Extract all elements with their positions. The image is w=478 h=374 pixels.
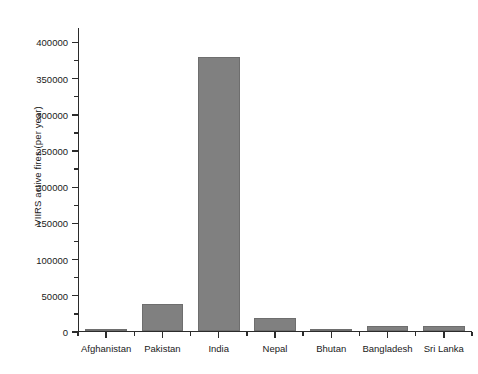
x-axis-tick-label: India xyxy=(208,343,229,354)
bar xyxy=(423,326,465,331)
y-axis-minor-tick xyxy=(74,277,78,278)
x-axis-tick: Bangladesh xyxy=(387,332,388,338)
y-axis-minor-tick xyxy=(74,168,78,169)
x-axis-minor-tick xyxy=(359,332,360,336)
plot-area: 0500001000001500002000002500003000003500… xyxy=(78,28,472,332)
y-axis-minor-tick xyxy=(74,241,78,242)
x-axis-minor-tick xyxy=(415,332,416,336)
x-axis-minor-tick xyxy=(302,332,303,336)
y-axis-title: VIIRS active fires (per year) xyxy=(30,0,46,332)
y-axis-tick: 200000 xyxy=(72,187,78,188)
y-axis-tick: 300000 xyxy=(72,114,78,115)
y-axis-tick-label: 150000 xyxy=(36,218,68,229)
x-axis-tick-label: Pakistan xyxy=(144,343,180,354)
x-axis-tick: Afghanistan xyxy=(105,332,106,338)
x-axis-minor-tick xyxy=(134,332,135,336)
bar xyxy=(367,326,409,331)
x-axis-tick-label: Nepal xyxy=(263,343,288,354)
y-axis-tick-label: 250000 xyxy=(36,146,68,157)
y-axis-tick: 250000 xyxy=(72,150,78,151)
x-axis-tick-label: Bangladesh xyxy=(362,343,412,354)
x-axis-tick-label: Bhutan xyxy=(316,343,346,354)
x-axis-tick-label: Sri Lanka xyxy=(424,343,464,354)
x-axis-tick-label: Afghanistan xyxy=(81,343,131,354)
x-axis-minor-tick xyxy=(190,332,191,336)
y-axis-tick: 150000 xyxy=(72,223,78,224)
bar xyxy=(198,57,240,331)
x-axis-tick: Pakistan xyxy=(162,332,163,338)
x-axis-tick: Bhutan xyxy=(331,332,332,338)
bar xyxy=(310,329,352,331)
bar xyxy=(85,329,127,331)
bar xyxy=(142,304,184,331)
y-axis-tick-label: 350000 xyxy=(36,73,68,84)
y-axis-tick: 50000 xyxy=(72,295,78,296)
x-axis-tick: India xyxy=(218,332,219,338)
y-axis-tick-label: 100000 xyxy=(36,254,68,265)
y-axis-minor-tick xyxy=(74,60,78,61)
y-axis-tick-label: 400000 xyxy=(36,37,68,48)
y-axis-minor-tick xyxy=(74,205,78,206)
x-axis-minor-tick xyxy=(471,332,472,336)
bar xyxy=(254,318,296,331)
y-axis-tick-label: 300000 xyxy=(36,109,68,120)
y-axis-minor-tick xyxy=(74,313,78,314)
bar-chart-figure: VIIRS active fires (per year) 0500001000… xyxy=(0,0,478,374)
x-axis-tick: Nepal xyxy=(274,332,275,338)
y-axis-tick: 400000 xyxy=(72,42,78,43)
y-axis-tick: 100000 xyxy=(72,259,78,260)
y-axis-minor-tick xyxy=(74,96,78,97)
y-axis-tick: 350000 xyxy=(72,78,78,79)
y-axis-tick-label: 0 xyxy=(63,326,68,337)
x-axis-tick: Sri Lanka xyxy=(443,332,444,338)
x-axis-minor-tick xyxy=(77,332,78,336)
y-axis-tick-label: 200000 xyxy=(36,182,68,193)
x-axis-minor-tick xyxy=(246,332,247,336)
y-axis-minor-tick xyxy=(74,132,78,133)
y-axis-tick-label: 50000 xyxy=(42,290,68,301)
